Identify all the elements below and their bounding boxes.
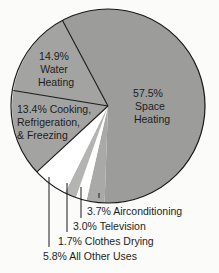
label-cooking-pct: 13.4% Cooking, (17, 103, 91, 115)
label-space-heating-pct: 57.5% (133, 87, 163, 99)
label-space-heating-1: Space (135, 100, 165, 112)
label-clothes-drying: 1.7% Clothes Drying (58, 235, 154, 247)
label-cooking-1: Refrigeration, (17, 116, 80, 128)
label-television: 3.0% Television (73, 220, 146, 232)
label-space-heating-2: Heating (134, 113, 170, 125)
label-water-heating-1: Water (40, 63, 68, 75)
label-water-heating-2: Heating (38, 76, 74, 88)
label-airconditioning: 3.7% Airconditioning (87, 205, 182, 217)
pie-chart: 14.9% Water Heating 13.4% Cooking, Refri… (0, 0, 219, 273)
label-all-other-uses: 5.8% All Other Uses (43, 250, 137, 262)
label-cooking-2: & Freezing (17, 129, 68, 141)
label-water-heating-pct: 14.9% (39, 50, 69, 62)
